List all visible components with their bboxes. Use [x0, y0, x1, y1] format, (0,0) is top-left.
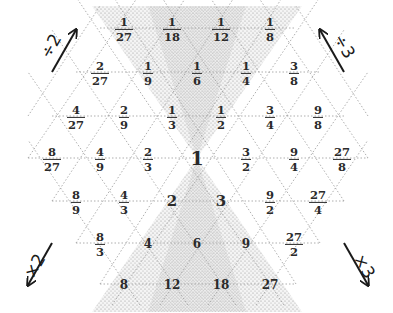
integer-value: 9 [240, 236, 252, 252]
fraction-denominator: 2 [241, 161, 251, 173]
fraction-denominator: 3 [95, 246, 105, 258]
lattice-fraction: 89 [71, 186, 81, 216]
fraction-denominator: 3 [119, 204, 129, 216]
fraction-denominator: 18 [163, 31, 181, 43]
fraction-denominator: 9 [119, 119, 129, 131]
fraction-denominator: 2 [289, 246, 299, 258]
lattice-fraction: 23 [143, 143, 153, 173]
lattice-fraction: 92 [265, 186, 275, 216]
lattice-fraction: 274 [309, 186, 327, 216]
fraction-numerator: 1 [167, 16, 177, 28]
lattice-integer: 3 [214, 193, 228, 209]
fraction-denominator: 2 [265, 204, 275, 216]
integer-value: 12 [162, 277, 183, 293]
fraction-denominator: 27 [115, 31, 133, 43]
lattice-fraction: 13 [167, 101, 177, 131]
lattice-fraction: 49 [95, 143, 105, 173]
fraction-numerator: 1 [143, 60, 153, 72]
lattice-integer: 1 [188, 149, 205, 168]
fraction-numerator: 1 [216, 16, 226, 28]
fraction-denominator: 3 [167, 119, 177, 131]
lattice-fraction: 38 [289, 57, 299, 87]
lattice-fraction: 278 [333, 143, 351, 173]
lattice-fraction: 12 [216, 101, 226, 131]
fraction-denominator: 4 [289, 161, 299, 173]
integer-value: 6 [191, 236, 203, 252]
lattice-integer: 2 [165, 193, 179, 209]
lattice-fraction: 43 [119, 186, 129, 216]
fraction-numerator: 4 [119, 189, 129, 201]
fraction-numerator: 1 [192, 60, 202, 72]
fraction-denominator: 9 [95, 161, 105, 173]
lattice-fraction: 83 [95, 228, 105, 258]
lattice-fraction: 227 [91, 57, 109, 87]
fraction-numerator: 8 [47, 146, 57, 158]
lattice-integer: 27 [260, 276, 281, 292]
lattice-fraction: 14 [241, 57, 251, 87]
fraction-denominator: 4 [265, 119, 275, 131]
fraction-numerator: 27 [285, 231, 303, 243]
lattice-fraction: 118 [163, 13, 181, 43]
lattice-fraction: 427 [67, 101, 85, 131]
fraction-numerator: 2 [143, 146, 153, 158]
fraction-numerator: 1 [167, 104, 177, 116]
fraction-denominator: 27 [43, 161, 61, 173]
fraction-denominator: 6 [192, 75, 202, 87]
fraction-numerator: 1 [119, 16, 129, 28]
fraction-numerator: 2 [119, 104, 129, 116]
fraction-numerator: 2 [95, 60, 105, 72]
fraction-numerator: 4 [71, 104, 81, 116]
fraction-numerator: 3 [265, 104, 275, 116]
fraction-denominator: 8 [337, 161, 347, 173]
lattice-integer: 18 [211, 276, 232, 292]
lattice-fraction: 29 [119, 101, 129, 131]
fraction-denominator: 12 [212, 31, 230, 43]
lattice-integer: 12 [162, 276, 183, 292]
integer-value: 3 [214, 191, 228, 211]
lattice-fraction: 827 [43, 143, 61, 173]
number-lattice-diagram: ÷2 ÷3 ×2 ×3 1271181121822719161438427291… [0, 0, 393, 313]
fraction-denominator: 8 [313, 119, 323, 131]
lattice-fraction: 16 [192, 57, 202, 87]
fraction-numerator: 9 [289, 146, 299, 158]
lattice-fraction: 112 [212, 13, 230, 43]
fraction-denominator: 9 [143, 75, 153, 87]
lattice-fraction: 272 [285, 228, 303, 258]
fraction-denominator: 27 [91, 75, 109, 87]
lattice-fraction: 18 [265, 13, 275, 43]
fraction-numerator: 27 [309, 189, 327, 201]
fraction-numerator: 9 [265, 189, 275, 201]
lattice-integer: 8 [118, 276, 130, 292]
fraction-numerator: 3 [289, 60, 299, 72]
fraction-numerator: 1 [265, 16, 275, 28]
fraction-denominator: 4 [241, 75, 251, 87]
fraction-denominator: 2 [216, 119, 226, 131]
fraction-denominator: 8 [289, 75, 299, 87]
lattice-fraction: 19 [143, 57, 153, 87]
fraction-denominator: 3 [143, 161, 153, 173]
lattice-integer: 9 [240, 235, 252, 251]
fraction-numerator: 8 [71, 189, 81, 201]
fraction-numerator: 3 [241, 146, 251, 158]
fraction-numerator: 9 [313, 104, 323, 116]
lattice-fraction: 127 [115, 13, 133, 43]
lattice-fraction: 32 [241, 143, 251, 173]
fraction-numerator: 8 [95, 231, 105, 243]
integer-value: 27 [260, 277, 281, 293]
integer-value: 4 [142, 236, 154, 252]
fraction-denominator: 9 [71, 204, 81, 216]
integer-value: 2 [165, 191, 179, 211]
fraction-numerator: 1 [216, 104, 226, 116]
integer-value: 8 [118, 277, 130, 293]
lattice-fraction: 94 [289, 143, 299, 173]
lattice-fraction: 98 [313, 101, 323, 131]
lattice-fraction: 34 [265, 101, 275, 131]
integer-value: 1 [188, 146, 205, 170]
fraction-numerator: 1 [241, 60, 251, 72]
fraction-denominator: 8 [265, 31, 275, 43]
fraction-numerator: 4 [95, 146, 105, 158]
fraction-denominator: 27 [67, 119, 85, 131]
lattice-integer: 4 [142, 235, 154, 251]
fraction-numerator: 27 [333, 146, 351, 158]
integer-value: 18 [211, 277, 232, 293]
